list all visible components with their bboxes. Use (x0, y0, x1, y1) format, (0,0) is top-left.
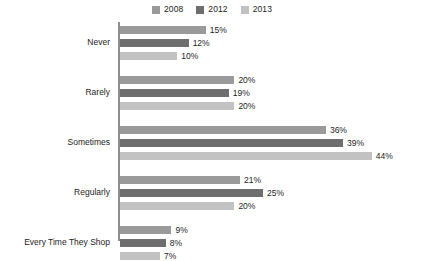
bar-value-label: 9% (175, 226, 187, 235)
bar-value-label: 7% (164, 252, 176, 261)
bar-2008[interactable] (120, 126, 326, 134)
bar-row: 25% (120, 189, 284, 197)
bar-row: 36% (120, 126, 347, 134)
bar-row: 19% (120, 89, 250, 97)
bar-group: Never15%12%10% (0, 26, 424, 60)
bar-2012[interactable] (120, 189, 263, 197)
bar-row: 10% (120, 52, 198, 60)
bar-value-label: 19% (233, 89, 250, 98)
bar-row: 8% (120, 239, 182, 247)
bar-2008[interactable] (120, 76, 234, 84)
bar-2008[interactable] (120, 176, 240, 184)
bar-row: 7% (120, 252, 176, 260)
bar-value-label: 8% (170, 239, 182, 248)
bar-row: 20% (120, 76, 255, 84)
bar-value-label: 20% (238, 102, 255, 111)
category-label: Every Time They Shop (0, 238, 110, 247)
bar-2012[interactable] (120, 239, 166, 247)
bar-value-label: 25% (267, 189, 284, 198)
bar-value-label: 39% (347, 139, 364, 148)
bar-row: 9% (120, 226, 188, 234)
bar-value-label: 12% (193, 39, 210, 48)
bar-row: 12% (120, 39, 210, 47)
bar-row: 20% (120, 102, 255, 110)
bar-group: Regularly21%25%20% (0, 176, 424, 210)
category-label: Regularly (0, 188, 110, 197)
category-label: Sometimes (0, 138, 110, 147)
bar-row: 44% (120, 152, 393, 160)
bar-value-label: 10% (181, 52, 198, 61)
bar-row: 15% (120, 26, 227, 34)
bar-group: Rarely20%19%20% (0, 76, 424, 110)
bar-value-label: 20% (238, 202, 255, 211)
bar-2008[interactable] (120, 226, 171, 234)
bar-value-label: 21% (244, 176, 261, 185)
bar-2013[interactable] (120, 152, 372, 160)
bar-2012[interactable] (120, 89, 229, 97)
bar-2013[interactable] (120, 102, 234, 110)
bar-group: Every Time They Shop9%8%7% (0, 226, 424, 260)
bar-group: Sometimes36%39%44% (0, 126, 424, 160)
bar-value-label: 15% (210, 26, 227, 35)
bar-2013[interactable] (120, 52, 177, 60)
bar-row: 20% (120, 202, 255, 210)
bar-2012[interactable] (120, 39, 189, 47)
bar-2012[interactable] (120, 139, 343, 147)
category-label: Never (0, 38, 110, 47)
bar-value-label: 36% (330, 126, 347, 135)
bar-2008[interactable] (120, 26, 206, 34)
category-label: Rarely (0, 88, 110, 97)
bar-value-label: 44% (376, 152, 393, 161)
bar-2013[interactable] (120, 252, 160, 260)
bar-row: 21% (120, 176, 261, 184)
bar-2013[interactable] (120, 202, 234, 210)
bar-value-label: 20% (238, 76, 255, 85)
bar-row: 39% (120, 139, 364, 147)
